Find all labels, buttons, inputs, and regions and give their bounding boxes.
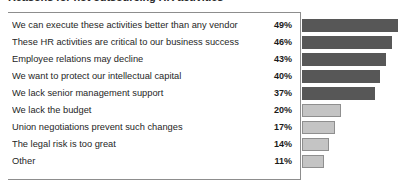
bar-row-value: 20%: [252, 102, 292, 119]
bar: [302, 70, 380, 83]
bar-row-value: 11%: [252, 153, 292, 170]
bar-row-label: These HR activities are critical to our …: [12, 34, 250, 51]
bar: [302, 36, 392, 49]
bar-row: We lack the budget20%: [0, 102, 412, 119]
bar-row-value: 37%: [252, 85, 292, 102]
bar-row: Employee relations may decline43%: [0, 51, 412, 68]
bar-row-value: 14%: [252, 136, 292, 153]
bar-row-label: We lack the budget: [12, 102, 250, 119]
bar-row-label: Union negotiations prevent such changes: [12, 119, 250, 136]
bar-track: [302, 34, 412, 51]
bar-track: [302, 85, 412, 102]
bar: [302, 138, 329, 151]
bar: [302, 53, 386, 66]
bar-row: We can execute these activities better t…: [0, 17, 412, 34]
bar-row: These HR activities are critical to our …: [0, 34, 412, 51]
bar-track: [302, 68, 412, 85]
bar-track: [302, 51, 412, 68]
bar: [302, 19, 398, 32]
bar-row-value: 17%: [252, 119, 292, 136]
bar: [302, 104, 341, 117]
bar-row: We want to protect our intellectual capi…: [0, 68, 412, 85]
bar-track: [302, 153, 412, 170]
bar-rows: We can execute these activities better t…: [0, 17, 412, 170]
bar: [302, 121, 335, 134]
bar-row-value: 43%: [252, 51, 292, 68]
bar-row: The legal risk is too great14%: [0, 136, 412, 153]
bar-track: [302, 17, 412, 34]
bar-row-value: 49%: [252, 17, 292, 34]
chart-title: Reasons for not outsourcing HR activitie…: [8, 0, 400, 3]
bar-row-label: Employee relations may decline: [12, 51, 250, 68]
bar-row: We lack senior management support37%: [0, 85, 412, 102]
bar-row-label: We want to protect our intellectual capi…: [12, 68, 250, 85]
chart-figure: Reasons for not outsourcing HR activitie…: [0, 0, 412, 195]
bar-row-value: 46%: [252, 34, 292, 51]
bar-row: Other11%: [0, 153, 412, 170]
bar-row-label: We can execute these activities better t…: [12, 17, 250, 34]
bar-row-value: 40%: [252, 68, 292, 85]
bar: [302, 155, 324, 168]
bar: [302, 87, 375, 100]
bar-row-label: Other: [12, 153, 250, 170]
bar-track: [302, 136, 412, 153]
bar-row-label: The legal risk is too great: [12, 136, 250, 153]
bar-row: Union negotiations prevent such changes1…: [0, 119, 412, 136]
bar-track: [302, 102, 412, 119]
bar-track: [302, 119, 412, 136]
bar-row-label: We lack senior management support: [12, 85, 250, 102]
